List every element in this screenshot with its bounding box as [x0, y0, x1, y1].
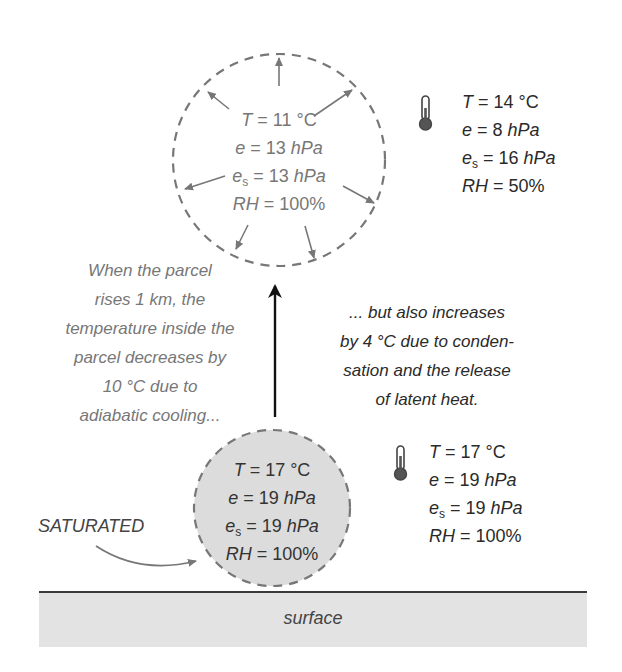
vapor-pressure-value: = 19 — [243, 488, 279, 508]
unit: hPa — [291, 138, 323, 158]
saturation-pressure-value: = 13 — [253, 166, 289, 186]
latent-heat-note: ... but also increases by 4 °C due to co… — [318, 298, 536, 414]
temperature-symbol: T — [234, 460, 245, 480]
note-line: 10 °C due to — [40, 372, 260, 401]
lower-environment-values: T = 17 °C e = 19 hPa es = 19 hPa RH = 10… — [429, 438, 523, 550]
saturation-pressure-value: = 16 — [483, 148, 519, 168]
temperature-symbol: T — [241, 110, 252, 130]
saturated-label: SATURATED — [38, 516, 144, 537]
vapor-pressure-value: = 19 — [444, 470, 480, 490]
unit: hPa — [485, 470, 517, 490]
vapor-pressure-value: = 13 — [250, 138, 286, 158]
note-line: temperature inside the — [40, 314, 260, 343]
unit: hPa — [491, 498, 523, 518]
temperature-value: = 11 °C — [257, 110, 316, 130]
temperature-symbol: T — [462, 92, 473, 112]
saturation-pressure-symbol: e — [462, 148, 472, 168]
subscript: s — [439, 507, 445, 521]
thermometer-icon — [420, 96, 432, 130]
note-line: by 4 °C due to conden- — [318, 327, 536, 356]
rh-symbol: RH — [226, 544, 252, 564]
vapor-pressure-symbol: e — [235, 138, 245, 158]
saturation-pressure-value: = 19 — [450, 498, 486, 518]
temperature-symbol: T — [429, 442, 440, 462]
saturation-pressure-symbol: e — [225, 516, 235, 536]
rh-symbol: RH — [429, 526, 455, 546]
note-line: of latent heat. — [318, 385, 536, 414]
temperature-value: = 17 °C — [445, 442, 506, 462]
note-line: ... but also increases — [318, 298, 536, 327]
temperature-value: = 14 °C — [478, 92, 539, 112]
saturation-pressure-value: = 19 — [246, 516, 282, 536]
unit: hPa — [508, 120, 540, 140]
adiabatic-cooling-note: When the parcel rises 1 km, the temperat… — [40, 256, 260, 430]
rh-value: = 100% — [257, 544, 319, 564]
temperature-value: = 17 °C — [250, 460, 311, 480]
subscript: s — [235, 525, 241, 539]
note-line: adiabatic cooling... — [40, 401, 260, 430]
rh-symbol: RH — [233, 194, 259, 214]
note-line: rises 1 km, the — [40, 285, 260, 314]
note-line: parcel decreases by — [40, 343, 260, 372]
unit: hPa — [294, 166, 326, 186]
rh-value: = 100% — [460, 526, 522, 546]
unit: hPa — [284, 488, 316, 508]
rh-value: = 50% — [493, 176, 545, 196]
saturation-pressure-symbol: e — [429, 498, 439, 518]
saturated-pointer-arrow — [96, 546, 196, 566]
upper-environment-values: T = 14 °C e = 8 hPa es = 16 hPa RH = 50% — [462, 88, 556, 200]
thermometer-icon — [395, 446, 407, 480]
unit: hPa — [287, 516, 319, 536]
saturation-pressure-symbol: e — [232, 166, 242, 186]
surface-label: surface — [39, 608, 587, 629]
vapor-pressure-symbol: e — [228, 488, 238, 508]
lower-parcel-values: T = 17 °C e = 19 hPa es = 19 hPa RH = 10… — [192, 456, 352, 568]
rh-value: = 100% — [264, 194, 326, 214]
vapor-pressure-symbol: e — [429, 470, 439, 490]
note-line: sation and the release — [318, 356, 536, 385]
subscript: s — [472, 157, 478, 171]
vapor-pressure-value: = 8 — [477, 120, 503, 140]
vapor-pressure-symbol: e — [462, 120, 472, 140]
note-line: When the parcel — [40, 256, 260, 285]
subscript: s — [242, 175, 248, 189]
rh-symbol: RH — [462, 176, 488, 196]
unit: hPa — [524, 148, 556, 168]
upper-parcel-values: T = 11 °C e = 13 hPa es = 13 hPa RH = 10… — [189, 106, 369, 218]
